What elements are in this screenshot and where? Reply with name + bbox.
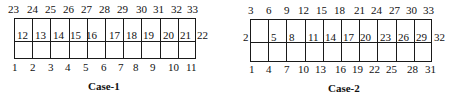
node-label: 22 bbox=[369, 64, 380, 75]
node-label: 11 bbox=[308, 32, 319, 43]
grid-line bbox=[286, 20, 287, 61]
grid-line bbox=[341, 20, 342, 61]
node-label: 18 bbox=[334, 5, 345, 16]
node-label: 13 bbox=[315, 64, 326, 75]
node-label: 16 bbox=[335, 64, 346, 75]
node-label: 24 bbox=[371, 5, 382, 16]
node-label: 33 bbox=[423, 5, 434, 16]
node-label: 8 bbox=[289, 32, 295, 43]
case-2-diagram: 3 6 9 12 15 18 21 24 27 30 33 2 5 8 11 1… bbox=[0, 0, 456, 100]
node-label: 5 bbox=[271, 32, 277, 43]
node-label: 2 bbox=[243, 32, 249, 43]
node-label: 23 bbox=[380, 32, 391, 43]
node-label: 30 bbox=[406, 5, 417, 16]
grid-line bbox=[377, 20, 378, 61]
node-label: 12 bbox=[298, 5, 309, 16]
node-label: 21 bbox=[354, 5, 365, 16]
node-label: 14 bbox=[325, 32, 336, 43]
node-label: 9 bbox=[284, 5, 290, 16]
node-label: 15 bbox=[316, 5, 327, 16]
node-label: 1 bbox=[249, 64, 255, 75]
grid-line bbox=[414, 20, 415, 61]
node-label: 10 bbox=[298, 64, 309, 75]
node-label: 26 bbox=[398, 32, 409, 43]
node-label: 25 bbox=[386, 64, 397, 75]
grid-line bbox=[268, 20, 269, 61]
node-label: 31 bbox=[425, 64, 436, 75]
node-label: 17 bbox=[343, 32, 354, 43]
node-label: 6 bbox=[266, 5, 272, 16]
node-label: 3 bbox=[248, 5, 254, 16]
node-label: 4 bbox=[266, 64, 272, 75]
node-label: 27 bbox=[389, 5, 400, 16]
node-label: 7 bbox=[284, 64, 290, 75]
grid-line bbox=[396, 20, 397, 61]
node-label: 19 bbox=[352, 64, 363, 75]
node-label: 29 bbox=[416, 32, 427, 43]
case-2-caption: Case-2 bbox=[328, 83, 360, 94]
node-label: 20 bbox=[360, 32, 371, 43]
node-label: 32 bbox=[434, 32, 445, 43]
grid-line bbox=[305, 20, 306, 61]
grid-line bbox=[323, 20, 324, 61]
node-label: 28 bbox=[407, 64, 418, 75]
